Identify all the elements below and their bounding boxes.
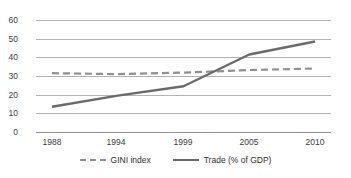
legend-entry-trade-pct-gdp: Trade (% of GDP) (173, 156, 272, 165)
y-tick-label: 30 (0, 72, 18, 81)
y-tick-label: 10 (0, 109, 18, 118)
legend-label: Trade (% of GDP) (204, 156, 272, 165)
y-tick-label: 60 (0, 16, 18, 25)
y-tick-label: 0 (0, 128, 18, 137)
legend-label: GINI index (111, 156, 151, 165)
x-tick-label: 2005 (240, 138, 259, 147)
legend-swatch-dashed-icon (80, 159, 106, 161)
x-tick-label: 2010 (306, 138, 325, 147)
series-layer (36, 20, 331, 132)
x-tick-label: 1999 (174, 138, 193, 147)
line-chart: 60 50 40 30 20 10 0 1988 1994 1999 2005 … (0, 0, 351, 178)
y-tick-label: 20 (0, 90, 18, 99)
y-tick-label: 40 (0, 53, 18, 62)
legend-entry-gini-index: GINI index (80, 156, 151, 165)
x-tick-label: 1994 (107, 138, 126, 147)
x-axis-line (36, 132, 331, 133)
series-line-gini-index (52, 69, 315, 75)
plot-area (36, 20, 331, 132)
legend-swatch-solid-icon (173, 159, 199, 161)
chart-legend: GINI index Trade (% of GDP) (0, 156, 351, 165)
x-tick-label: 1988 (43, 138, 62, 147)
y-tick-label: 50 (0, 34, 18, 43)
